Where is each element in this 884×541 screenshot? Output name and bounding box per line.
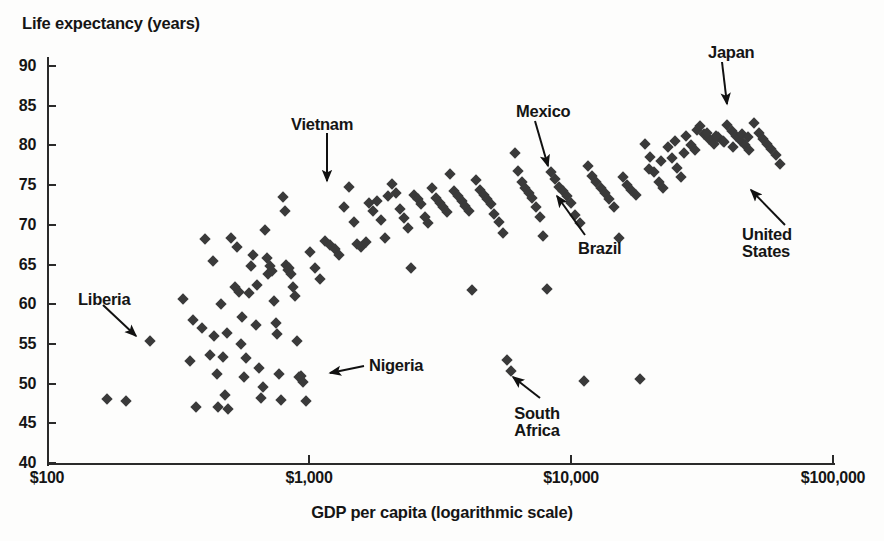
data-point	[300, 395, 311, 406]
data-point	[255, 392, 266, 403]
data-point	[185, 356, 196, 367]
data-point	[658, 183, 669, 194]
annotation-arrow	[535, 121, 548, 166]
annotation-label-line: Africa	[467, 422, 607, 439]
data-point	[205, 349, 216, 360]
data-point	[207, 256, 218, 267]
data-point	[509, 148, 520, 159]
data-point	[348, 216, 359, 227]
data-point	[415, 198, 426, 209]
y-tick-mark	[47, 343, 56, 345]
data-point	[405, 262, 416, 273]
data-point	[190, 402, 201, 413]
x-tick-label: $100	[0, 469, 107, 487]
x-axis-title: GDP per capita (logarithmic scale)	[0, 503, 884, 522]
y-tick-mark	[47, 383, 56, 385]
data-point	[505, 365, 516, 376]
data-point	[289, 291, 300, 302]
data-point	[250, 319, 261, 330]
y-tick-mark	[47, 422, 56, 424]
y-tick-label: 55	[2, 335, 36, 353]
data-point	[655, 156, 666, 167]
data-point	[338, 202, 349, 213]
data-point	[268, 295, 279, 306]
y-tick-label: 45	[2, 414, 36, 432]
y-tick-mark	[47, 462, 56, 464]
annotation-arrow	[513, 377, 540, 398]
x-tick-label: $1,000	[249, 469, 369, 487]
data-point	[538, 230, 549, 241]
data-point	[187, 314, 198, 325]
data-point	[219, 389, 230, 400]
annotation-arrow	[751, 190, 785, 225]
data-point	[640, 138, 651, 149]
data-point	[402, 222, 413, 233]
annotation-label-line: United	[742, 226, 792, 243]
scatter-chart: Life expectancy (years) 9085807570656055…	[0, 0, 884, 541]
data-point	[273, 368, 284, 379]
x-axis-line	[47, 463, 835, 465]
data-point	[257, 381, 268, 392]
data-point	[247, 249, 258, 260]
data-point	[690, 144, 701, 155]
annotation-label: SouthAfrica	[467, 405, 607, 439]
y-tick-mark	[47, 144, 56, 146]
data-point	[277, 191, 288, 202]
data-point	[279, 205, 290, 216]
data-point	[676, 171, 687, 182]
annotation-arrow	[103, 305, 136, 336]
y-tick-label: 60	[2, 295, 36, 313]
data-point	[271, 329, 282, 340]
y-tick-mark	[47, 264, 56, 266]
data-point	[240, 353, 251, 364]
data-point	[379, 232, 390, 243]
annotation-label-line: Japan	[708, 44, 754, 61]
data-point	[243, 287, 254, 298]
data-point	[375, 214, 386, 225]
annotation-label: Mexico	[516, 103, 570, 120]
data-point	[211, 368, 222, 379]
data-point	[534, 211, 545, 222]
data-point	[177, 294, 188, 305]
annotation-arrow	[330, 366, 364, 373]
data-point	[275, 395, 286, 406]
annotation-label: Brazil	[578, 240, 621, 257]
data-point	[199, 233, 210, 244]
data-point	[304, 246, 315, 257]
data-point	[209, 330, 220, 341]
data-point	[497, 227, 508, 238]
y-tick-mark	[47, 105, 56, 107]
annotation-label: Liberia	[78, 291, 130, 308]
data-point	[343, 181, 354, 192]
data-point	[270, 318, 281, 329]
data-point	[541, 283, 552, 294]
data-point	[298, 376, 309, 387]
y-tick-label: 70	[2, 216, 36, 234]
data-point	[217, 351, 228, 362]
y-tick-label: 65	[2, 256, 36, 274]
data-point	[467, 284, 478, 295]
annotation-label-line: States	[742, 243, 792, 260]
data-point	[744, 144, 755, 155]
data-point	[578, 376, 589, 387]
annotation-arrow	[722, 62, 727, 104]
data-point	[245, 260, 256, 271]
annotation-label-line: South	[467, 405, 607, 422]
data-point	[513, 165, 524, 176]
data-point	[309, 262, 320, 273]
data-point	[145, 335, 156, 346]
y-tick-label: 50	[2, 375, 36, 393]
annotation-label-line: Vietnam	[291, 116, 353, 133]
annotation-label: Japan	[708, 44, 754, 61]
data-point	[644, 151, 655, 162]
annotation-label: Nigeria	[369, 357, 423, 374]
data-point	[215, 299, 226, 310]
y-tick-label: 75	[2, 176, 36, 194]
data-point	[221, 327, 232, 338]
data-point	[253, 362, 264, 373]
x-tick-mark	[570, 455, 572, 464]
data-point	[635, 373, 646, 384]
data-point	[238, 372, 249, 383]
data-point	[231, 241, 242, 252]
annotation-label: UnitedStates	[742, 226, 792, 260]
